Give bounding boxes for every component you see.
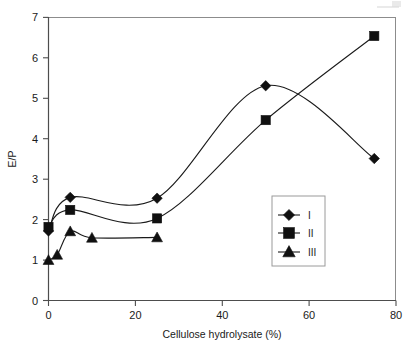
x-tick-labels: 0 20 40 60 80 [45,309,402,321]
diamond-marker-icon [369,153,379,163]
series-ii [44,31,379,231]
square-marker-icon [370,31,379,40]
scan-artifact [377,1,401,8]
y-tick-label: 6 [32,52,38,64]
chart-figure: 0 1 2 3 4 5 6 7 E/P 0 20 [0,0,407,344]
x-tick-label: 60 [303,309,315,321]
y-axis: 0 1 2 3 4 5 6 7 E/P [6,11,49,306]
x-tick-label: 0 [45,309,51,321]
plot-frame [48,18,396,301]
y-tick-label: 5 [32,92,38,104]
legend-label: III [308,247,316,258]
y-tick-label: 1 [32,254,38,266]
y-tick-label: 2 [32,214,38,226]
x-tick-label: 20 [129,309,141,321]
y-tick-label: 0 [32,295,38,307]
x-tick-label: 40 [216,309,228,321]
triangle-marker-icon [152,232,163,242]
y-tick-labels: 0 1 2 3 4 5 6 7 [32,11,38,306]
y-tick-label: 3 [32,173,38,185]
x-tick-label: 80 [390,309,402,321]
series-line [49,231,158,260]
square-marker-icon [44,222,53,231]
triangle-marker-icon [52,249,63,259]
y-axis-title: E/P [6,151,18,168]
square-marker-icon [66,205,75,214]
diamond-marker-icon [152,193,162,203]
series-iii [43,226,162,265]
square-marker-icon [152,214,161,223]
series-i [43,81,379,237]
chart-canvas: 0 1 2 3 4 5 6 7 E/P 0 20 [0,0,407,344]
diamond-marker-icon [65,192,75,202]
x-axis: 0 20 40 60 80 Cellulose hydrolysate (%) [45,301,402,341]
data-series-layer [43,31,379,264]
square-marker-icon [261,116,270,125]
x-axis-ticks [49,301,397,307]
legend-label: II [308,228,314,239]
legend-label: I [308,210,311,221]
y-tick-label: 7 [32,11,38,23]
square-marker-icon [284,228,295,239]
y-tick-label: 4 [32,133,38,145]
diamond-marker-icon [260,81,270,91]
legend: I II III [272,196,325,266]
x-axis-title: Cellulose hydrolysate (%) [162,328,281,340]
legend-box [272,196,325,266]
